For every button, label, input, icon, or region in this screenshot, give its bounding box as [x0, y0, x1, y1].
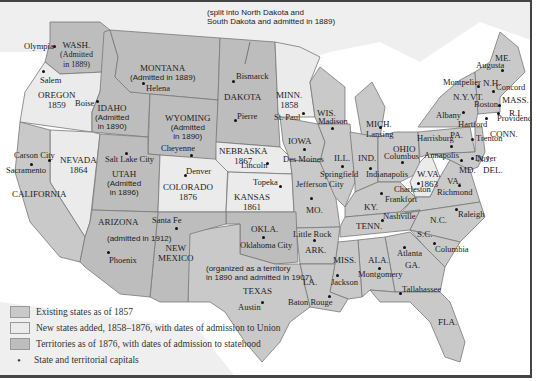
capital-richmond: Richmond — [437, 188, 472, 197]
legend-capitals: • State and territorial capitals — [10, 352, 281, 368]
dakota-note: (split into North Dakota andSouth Dakota… — [207, 8, 335, 26]
capital-des-moines: Des Moines — [283, 155, 324, 164]
capital-pierre: Pierre — [237, 112, 257, 121]
capital-dot — [310, 197, 313, 200]
capital-raleigh: Raleigh — [458, 210, 484, 219]
capital-boise: Boise — [75, 99, 94, 108]
capital-dot — [107, 251, 110, 254]
state-label-oregon: OREGON1859 — [38, 90, 76, 110]
state-label-del: DEL. — [483, 165, 503, 175]
state-label-arizona: ARIZONA — [98, 217, 139, 227]
capital-dot — [462, 111, 465, 114]
state-label-idaho: IDAHO (Admittedin 1890) — [95, 104, 129, 131]
capital-dot — [279, 185, 282, 188]
capital-augusta: Augusta — [476, 61, 504, 70]
state-label-dakota: DAKOTA — [224, 92, 261, 102]
state-label-ny: N.Y. — [453, 92, 469, 102]
capital-dot — [142, 82, 145, 85]
capital-columbia: Columbia — [435, 245, 469, 254]
state-label-utah: UTAH (Admittedin 1896) — [107, 170, 141, 197]
capital-indianapolis: Indianapolis — [366, 170, 408, 179]
capital-baton-rouge: Baton Rouge — [288, 298, 333, 307]
capital-montpelier: Montpelier — [443, 78, 481, 87]
capital-hartford: Hartford — [458, 120, 487, 129]
capital-dot — [232, 80, 235, 83]
capital-harrisburg: Harrisburg — [417, 134, 454, 143]
capital-dot — [175, 227, 178, 230]
capital-denver: Denver — [186, 167, 211, 176]
capital-topeka: Topeka — [253, 178, 278, 187]
okla-note: (organized as a territoryin 1890 and adm… — [206, 264, 312, 282]
capital-tallahassee: Tallahassee — [402, 285, 441, 294]
capital-dot — [498, 104, 501, 107]
state-label-kansas: KANSAS1861 — [234, 192, 270, 212]
capital-frankfort: Frankfort — [385, 195, 417, 204]
capital-st-paul: St. Paul — [274, 113, 300, 122]
capital-santa-fe: Santa Fe — [152, 216, 182, 225]
capital-bismarck: Bismarck — [236, 72, 269, 81]
capital-dot — [42, 70, 45, 73]
capital-jefferson-city: Jefferson City — [296, 180, 344, 189]
state-label-ky: KY. — [364, 202, 378, 212]
capital-carson-city: Carson City — [14, 151, 55, 160]
capital-dot-icon: • — [10, 355, 28, 366]
state-label-md: MD. — [459, 165, 476, 175]
capital-dot — [341, 165, 344, 168]
capital-annapolis: Annapolis — [424, 151, 459, 160]
state-label-ark: ARK. — [305, 245, 326, 255]
state-label-ind: IND. — [358, 153, 376, 163]
capital-dot — [303, 148, 306, 151]
state-label-nevada: NEVADA1864 — [60, 155, 97, 175]
capital-dot — [331, 127, 334, 130]
capital-atlanta: Atlanta — [397, 249, 422, 258]
capital-sacramento: Sacramento — [6, 166, 46, 175]
legend-new-states: New states added, 1858–1876, with dates … — [10, 320, 281, 336]
state-label-colorado: COLORADO1876 — [163, 182, 213, 202]
capital-nashville: Nashville — [383, 212, 416, 221]
state-label-california: CALIFORNIA — [12, 189, 67, 199]
legend-swatch-territories — [10, 338, 30, 350]
map-frame: WASH. (Admittedin 1889) OREGON1859 IDAHO… — [0, 0, 532, 378]
state-label-okla: OKLA. — [251, 224, 278, 234]
state-label-minn: MINN.1858 — [276, 90, 302, 110]
state-label-mo: MO. — [306, 205, 323, 215]
state-label-nc: N.C. — [430, 215, 447, 225]
capital-concord: Concord — [496, 83, 525, 92]
legend-existing-states: Existing states as of 1857 — [10, 304, 281, 320]
state-label-fla: FLA. — [438, 317, 457, 327]
state-label-miss: MISS. — [333, 255, 356, 265]
capital-dover: Dover — [475, 154, 496, 163]
legend-swatch-existing — [10, 306, 30, 318]
state-label-la: LA. — [303, 277, 317, 287]
state-label-ala: ALA. — [368, 255, 389, 265]
state-label-wyoming: WYOMING (Admittedin 1890) — [165, 114, 211, 141]
legend-territories: Territories as of 1876, with dates of ad… — [10, 336, 281, 352]
capital-dot — [460, 159, 463, 162]
capital-madison: Madison — [318, 117, 348, 126]
capital-dot — [492, 90, 495, 93]
state-label-sc: S.C. — [417, 229, 433, 239]
capital-little-rock: Little Rock — [293, 230, 331, 239]
capital-dot — [401, 161, 404, 164]
state-label-mass: MASS. — [502, 95, 529, 105]
capital-lincoln: Lincoln — [241, 161, 267, 170]
legend-swatch-new — [10, 322, 30, 334]
capital-phoenix: Phoenix — [109, 256, 137, 265]
capital-trenton: Trenton — [476, 134, 503, 143]
capital-dot — [450, 145, 453, 148]
capital-charleston: Charleston — [394, 185, 431, 194]
capital-dot — [313, 239, 316, 242]
capital-dot — [380, 192, 383, 195]
capital-dot — [96, 100, 99, 103]
capital-providence: Providence — [497, 114, 532, 123]
capital-columbus: Columbus — [384, 152, 419, 161]
capital-dot — [471, 138, 474, 141]
capital-springfield: Springfield — [320, 170, 358, 179]
state-label-montana: MONTANA (Admitted in 1889) — [130, 64, 195, 82]
state-label-tenn: TENN. — [356, 221, 382, 231]
state-label-texas: TEXAS — [243, 286, 272, 296]
capital-salt-lake-city: Salt Lake City — [105, 155, 154, 164]
capital-helena: Helena — [146, 84, 170, 93]
capital-jackson: Jackson — [331, 278, 358, 287]
capital-cheyenne: Cheyenne — [161, 144, 195, 153]
